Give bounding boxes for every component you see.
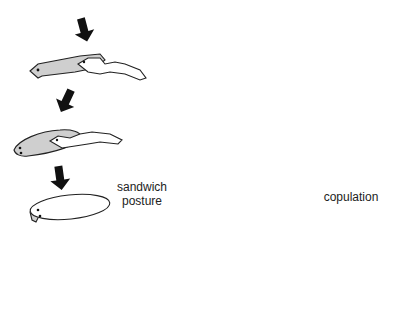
arrow-down-left [52, 86, 80, 116]
label-sandwich-line1: sandwich [112, 180, 172, 194]
stage-1-worms [30, 54, 146, 80]
arrow-down [48, 165, 71, 192]
stage-3-sandwich [29, 191, 111, 223]
mating-sequence-diagram: sandwich posture copulation [0, 0, 394, 314]
label-copulation: copulation [318, 190, 384, 204]
stage-2-worms [14, 130, 122, 156]
arrow-down [71, 16, 97, 44]
label-sandwich-line2: posture [112, 194, 172, 208]
diagram-canvas [0, 0, 394, 314]
label-sandwich-posture: sandwich posture [112, 180, 172, 208]
